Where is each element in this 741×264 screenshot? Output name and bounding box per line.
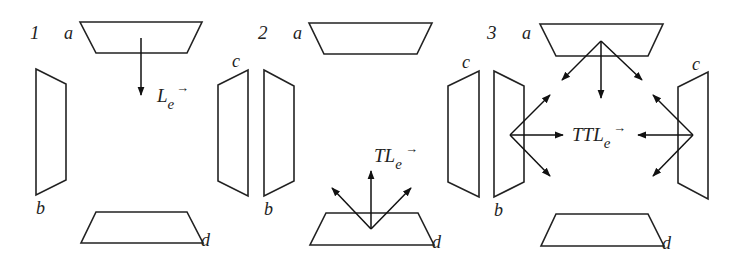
panel-1: 1 a b c d Le → [30,22,248,250]
reflect-arrow-up-left [332,188,371,229]
surface-label-d: d [662,233,672,253]
reflect-arrow-up-right [371,188,411,229]
surface-label-a: a [522,23,531,43]
operator-label: Le [156,85,175,112]
bounce-arrow-c-down-left [653,135,693,176]
surface-label-c: c [232,51,240,71]
vector-arrow-icon: → [176,80,189,95]
panel-3: 3 a b c d TTLe → [486,22,708,253]
surface-label-b: b [264,199,273,219]
surface-c [448,71,479,197]
surface-label-c: c [462,52,470,72]
panel-number-label: 3 [486,22,497,43]
surface-d [541,214,664,246]
panel-2: 2 a b c d TLe → [258,22,479,252]
surface-label-c: c [692,54,700,74]
surface-d [81,212,203,243]
bounce-arrow-b-down-right [510,135,550,176]
surface-label-b: b [36,198,45,218]
bounce-arrow-c-up-left [653,95,693,135]
panel-number-label: 1 [30,22,40,43]
operator-label: TTLe [572,124,611,151]
operator-label: TLe [374,145,402,172]
bounce-arrow-a-down-left [562,41,601,80]
surface-label-a: a [64,23,73,43]
surface-label-a: a [293,23,302,43]
surface-b [264,70,294,196]
surface-label-d: d [432,232,442,252]
vector-arrow-icon: → [613,120,626,135]
vector-arrow-icon: → [405,141,418,156]
surface-c [218,70,248,196]
light-transport-diagram: 1 a b c d Le → 2 a b c d TLe → 3 a b [0,0,741,264]
bounce-arrow-a-down-right [601,41,642,80]
surface-a [309,23,432,54]
bounce-arrow-b-up-right [510,95,550,135]
panel-number-label: 2 [258,22,268,43]
surface-label-b: b [494,200,503,220]
surface-label-d: d [201,230,211,250]
surface-b [494,71,524,197]
surface-b [36,69,66,195]
